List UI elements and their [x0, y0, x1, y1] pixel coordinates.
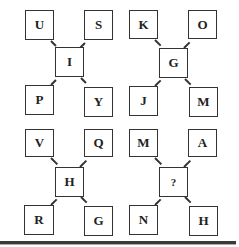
letter: P: [36, 92, 44, 108]
letter-box-bottom-left: N: [129, 205, 158, 235]
letter: N: [139, 212, 148, 228]
letter: M: [197, 94, 209, 110]
letter: V: [35, 135, 44, 151]
bottom-divider-shadow: [0, 244, 236, 245]
letter: Q: [93, 135, 103, 151]
connector-line: [50, 157, 58, 165]
letter: G: [168, 55, 178, 71]
letter: J: [140, 93, 147, 109]
letter-box-top-right: A: [188, 129, 217, 157]
letter: I: [67, 54, 72, 70]
letter-box-bottom-right: G: [84, 206, 113, 236]
letter: G: [93, 213, 103, 229]
unknown-letter-box: ?: [159, 167, 188, 197]
letter: Y: [94, 94, 103, 110]
letter: H: [198, 213, 208, 229]
letter: O: [197, 17, 207, 33]
question-mark: ?: [171, 176, 177, 188]
connector-line: [154, 157, 162, 165]
letter-box-top-left: U: [25, 10, 54, 40]
connector-line: [80, 77, 86, 83]
letter-box-bottom-right: M: [189, 87, 218, 117]
letter-box-bottom-right: Y: [84, 87, 113, 117]
letter: U: [35, 17, 44, 33]
letter-box-top-right: Q: [84, 129, 113, 157]
letter: H: [64, 174, 74, 190]
letter-box-top-left: V: [25, 129, 54, 157]
letter-box-top-right: O: [188, 10, 217, 39]
connector-line: [154, 39, 161, 46]
letter-box-bottom-left: P: [25, 85, 54, 115]
letter: S: [95, 17, 102, 33]
letter: K: [138, 17, 148, 33]
letter: M: [137, 135, 149, 151]
letter-box-center: G: [159, 48, 188, 78]
letter-box-center: I: [55, 47, 84, 77]
letter: A: [198, 135, 207, 151]
letter-box-top-left: M: [129, 129, 158, 157]
connector-line: [50, 40, 56, 46]
letter-box-top-left: K: [129, 10, 158, 39]
connector-line: [184, 196, 191, 203]
connector-line: [80, 196, 87, 203]
letter-box-center: H: [55, 167, 84, 197]
letter-box-bottom-left: R: [24, 205, 54, 235]
connector-line: [184, 78, 191, 85]
letter-box-top-right: S: [84, 10, 113, 40]
letter-box-bottom-right: H: [189, 206, 218, 236]
letter: R: [34, 212, 43, 228]
letter-box-bottom-left: J: [129, 86, 158, 116]
